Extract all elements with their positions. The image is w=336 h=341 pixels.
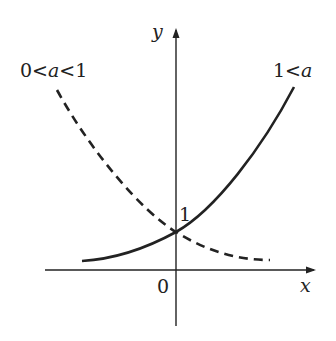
y-axis-label: y [152, 22, 163, 41]
y-intercept-label: 1 [179, 205, 191, 224]
decay-label-a: a [48, 59, 59, 81]
growth-curve [82, 87, 294, 261]
growth-curve-label: 1<a [273, 61, 312, 80]
exponential-function-diagram: y x 0 1 0<a<1 1<a [0, 0, 336, 341]
decay-curve-label: 0<a<1 [20, 61, 87, 80]
origin-label: 0 [157, 277, 169, 296]
x-axis-label: x [300, 276, 311, 295]
decay-label-left: 0< [20, 59, 48, 81]
growth-label-left: 1< [273, 59, 301, 81]
decay-label-right: <1 [59, 59, 87, 81]
growth-label-a: a [301, 59, 312, 81]
